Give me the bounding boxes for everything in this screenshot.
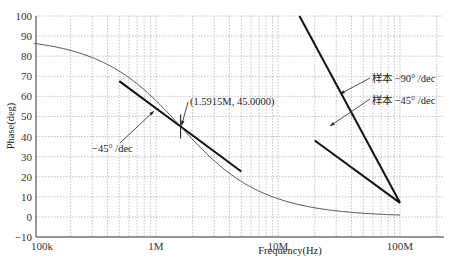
grid-lines [36, 16, 444, 237]
slope-45-annotation: −45° /dec [92, 143, 133, 154]
svg-text:100: 100 [16, 10, 33, 22]
svg-text:100k: 100k [31, 240, 54, 252]
point-annotation: (1.5915M, 45.0000) [190, 96, 275, 108]
svg-text:100M: 100M [387, 240, 414, 252]
sample-90-annotation: 样本 −90° /dec [372, 72, 436, 84]
svg-text:−10: −10 [15, 231, 33, 243]
svg-text:20: 20 [21, 171, 33, 183]
svg-text:1M: 1M [148, 240, 164, 252]
svg-text:80: 80 [21, 50, 33, 62]
svg-text:0: 0 [27, 211, 33, 223]
svg-text:10: 10 [21, 191, 33, 203]
data-series [34, 16, 400, 215]
x-axis-label: Frequency(Hz) [258, 245, 322, 257]
svg-text:30: 30 [21, 151, 33, 163]
svg-text:70: 70 [21, 70, 33, 82]
svg-text:40: 40 [21, 131, 33, 143]
axes [36, 16, 444, 237]
y-axis-label: Phase(deg) [5, 102, 17, 149]
svg-text:50: 50 [21, 110, 33, 122]
svg-text:90: 90 [21, 30, 33, 42]
sample-45-annotation: 样本 −45° /dec [372, 94, 436, 106]
svg-text:60: 60 [21, 90, 33, 102]
phase-plot: −100102030405060708090100100k1M10M100M F… [0, 0, 455, 276]
